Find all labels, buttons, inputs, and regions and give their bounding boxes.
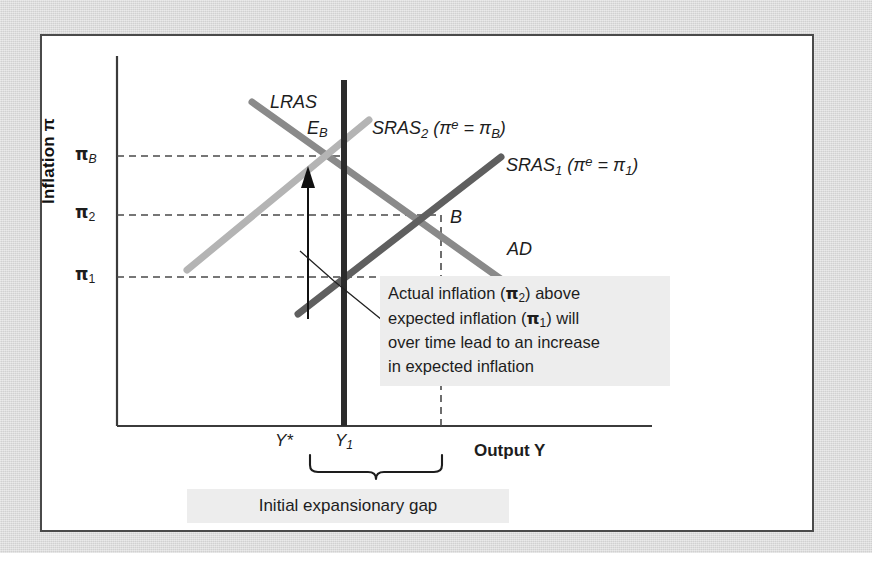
x-axis-title: Output Y: [474, 442, 545, 460]
curve-label-lras: LRAS: [270, 93, 317, 112]
curve-label-sras1: SRAS1 (πe = π1): [506, 155, 638, 177]
y-tick-label-pi2: π2: [75, 203, 95, 224]
y-tick-label-piB: πB: [75, 145, 97, 166]
y-axis-title: Inflation π: [40, 118, 58, 204]
expansionary-gap-caption: Initial expansionary gap: [187, 489, 509, 523]
figure-root: Inflation π πB π2 π1 Y* Y1 Output Y: [0, 0, 872, 567]
point-label-eb: EB: [307, 119, 328, 140]
x-tick-label-ystar: Y*: [275, 432, 293, 450]
annotation-textbox: Actual inflation (π2) above expected inf…: [380, 276, 670, 386]
x-tick-label-y1: Y1: [335, 432, 353, 452]
point-label-b: B: [450, 208, 462, 227]
annotation-line-3: over time lead to an increase: [388, 331, 662, 354]
y-tick-label-pi1: π1: [75, 265, 95, 286]
annotation-line-2: expected inflation (π1) will: [388, 307, 662, 332]
figure-panel: Inflation π πB π2 π1 Y* Y1 Output Y: [40, 34, 814, 532]
curve-label-sras2: SRAS2 (πe = πB): [372, 118, 506, 140]
plot-area: Inflation π πB π2 π1 Y* Y1 Output Y: [42, 36, 812, 530]
bottom-white-band: [0, 553, 872, 567]
expansionary-gap-brace: [310, 455, 442, 479]
annotation-line-1: Actual inflation (π2) above: [388, 282, 662, 307]
annotation-line-4: in expected inflation: [388, 355, 662, 378]
curve-label-ad: AD: [507, 240, 532, 259]
